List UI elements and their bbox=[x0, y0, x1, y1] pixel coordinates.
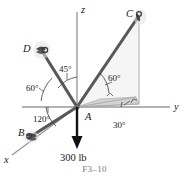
figure-caption: F3–10 bbox=[0, 164, 189, 174]
hook-icon-D bbox=[34, 41, 51, 59]
angle-leader-60-left bbox=[39, 88, 44, 92]
load-arrow bbox=[72, 107, 83, 149]
point-B-label: B bbox=[18, 127, 25, 138]
angle-arc-60-left bbox=[41, 78, 52, 101]
figure-container: z y x A B C D 45° 60° 120° 60° 30° 300 l… bbox=[0, 0, 189, 183]
cable-AD bbox=[42, 51, 77, 107]
point-A-label: A bbox=[84, 111, 92, 122]
z-axis-label: z bbox=[80, 4, 85, 15]
hook-icon-C bbox=[134, 9, 147, 25]
point-D-label: D bbox=[22, 43, 31, 54]
angle-label-45: 45° bbox=[59, 64, 72, 74]
angle-label-120: 120° bbox=[33, 114, 51, 124]
point-C-label: C bbox=[126, 8, 134, 19]
statics-diagram: z y x A B C D 45° 60° 120° 60° 30° 300 l… bbox=[0, 0, 189, 183]
angle-label-60-right: 60° bbox=[108, 73, 121, 83]
hook-icon-B bbox=[23, 131, 39, 143]
load-label: 300 lb bbox=[60, 152, 87, 163]
angle-label-60-left: 60° bbox=[26, 83, 39, 93]
y-axis-label: y bbox=[173, 101, 179, 112]
angle-label-30: 30° bbox=[113, 120, 126, 130]
